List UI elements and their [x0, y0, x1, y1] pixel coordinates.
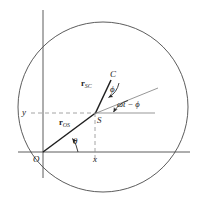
diagram-canvas: [0, 0, 199, 214]
point-c-label: C: [110, 70, 116, 79]
origin-label: O: [33, 155, 40, 164]
orbit-circle: [18, 22, 188, 192]
x-axis-label: x: [93, 155, 97, 164]
y-axis-label: y: [22, 108, 26, 117]
vector-sc-label: rSC: [81, 79, 92, 89]
vector-os-subscript: OS: [63, 122, 70, 128]
point-s-label: S: [97, 116, 102, 125]
angle-theta-label: θ: [73, 137, 77, 146]
angle-phi-label: ϕ: [110, 85, 115, 94]
figure-container: O S C y x rOS rSC θ ϕ ωt − ϕ: [0, 0, 199, 214]
angle-omega-t-minus-phi-label: ωt − ϕ: [117, 100, 140, 109]
vector-os-label: rOS: [59, 118, 70, 128]
vector-sc-subscript: SC: [85, 83, 92, 89]
